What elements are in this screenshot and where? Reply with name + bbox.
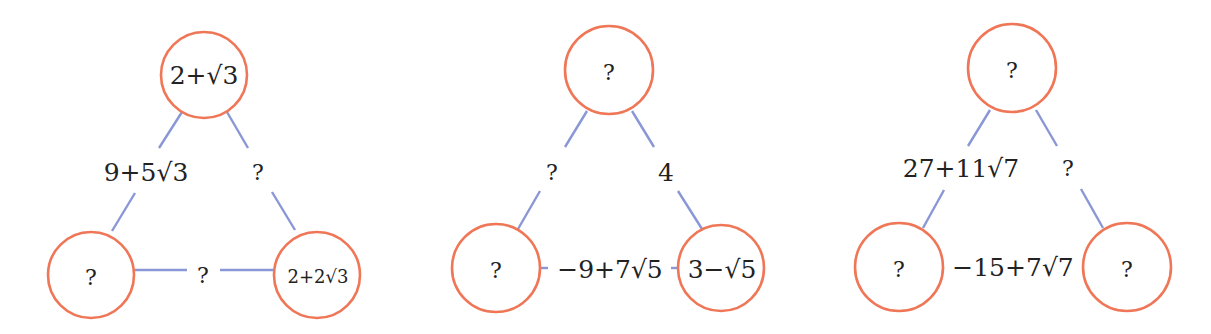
edge-line-right-upper [1036, 110, 1057, 146]
edge-line-left-upper [968, 110, 990, 146]
edge-line-right-lower [272, 192, 295, 230]
edge-bottom-label: −9+7√5 [557, 255, 663, 284]
diagram-2: ? ? 3−√5 ? 4 −9+7√5 [452, 26, 764, 312]
edge-line-left-lower [112, 193, 135, 231]
node-bottom-left-label: ? [490, 258, 502, 283]
diagram-3: ? ? ? 27+11√7 ? −15+7√7 [855, 24, 1171, 311]
node-bottom-right-label: 3−√5 [688, 255, 757, 284]
edge-bottom-label: ? [197, 263, 209, 288]
edge-line-right-upper [632, 111, 654, 147]
edge-line-right-lower [1081, 189, 1103, 228]
node-top-label: 2+√3 [170, 61, 239, 90]
edge-right-label: 4 [658, 158, 674, 187]
node-top-label: ? [1006, 58, 1018, 83]
edge-line-left-lower [923, 190, 944, 228]
edge-left-label: ? [546, 160, 558, 185]
edge-line-left-lower [518, 191, 540, 229]
node-bottom-right-label: ? [1121, 257, 1133, 282]
node-top-label: ? [603, 60, 615, 85]
edge-left-label: 27+11√7 [903, 154, 1019, 183]
edge-left-label: 9+5√3 [104, 158, 189, 187]
edge-line-right-upper [227, 112, 248, 148]
edge-line-right-lower [678, 191, 702, 229]
node-bottom-right-label: 2+2√3 [288, 266, 349, 287]
edge-line-left-upper [565, 111, 587, 147]
edge-right-label: ? [1062, 156, 1074, 181]
diagram-1: 2+√3 ? 2+2√3 9+5√3 ? ? [48, 32, 360, 318]
edge-line-left-upper [159, 112, 182, 148]
node-bottom-left-label: ? [85, 265, 97, 290]
triangle-diagrams: 2+√3 ? 2+2√3 9+5√3 ? ? ? ? 3−√5 ? 4 −9+7… [0, 0, 1211, 334]
edge-bottom-label: −15+7√7 [952, 253, 1073, 282]
edge-right-label: ? [252, 160, 264, 185]
node-bottom-left-label: ? [893, 257, 905, 282]
